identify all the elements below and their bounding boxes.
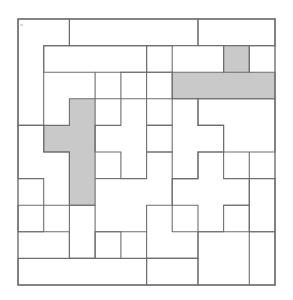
scan-speck xyxy=(20,24,23,26)
polyomino-puzzle-figure xyxy=(0,0,293,300)
puzzle-svg-canvas xyxy=(0,0,293,300)
